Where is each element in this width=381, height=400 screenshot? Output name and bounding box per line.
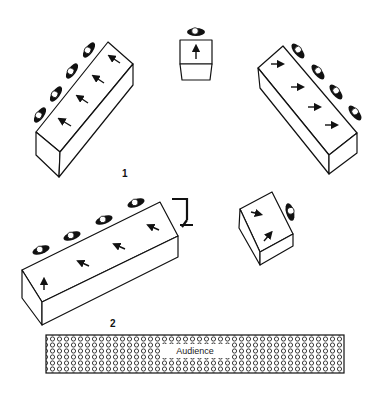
platform-bottom-right — [239, 192, 293, 265]
platform-group-1-label: 1 — [122, 168, 128, 179]
stage-diagram — [0, 0, 381, 400]
platform-top-center — [180, 40, 212, 80]
platform-top-right — [258, 46, 357, 174]
audience-label: Audience — [160, 344, 230, 358]
stand-icon — [172, 199, 193, 227]
platform-group-2-label: 2 — [110, 318, 116, 329]
